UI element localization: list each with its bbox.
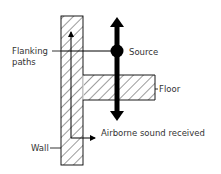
flanking-diagram: Flanking paths Source Floor Airborne sou… — [0, 0, 221, 174]
label-source: Source — [129, 47, 158, 57]
label-paths: paths — [12, 57, 36, 67]
label-floor: Floor — [159, 84, 181, 94]
wall — [61, 16, 83, 165]
source-arrow — [110, 17, 124, 121]
label-flanking: Flanking — [12, 46, 48, 56]
label-airborne: Airborne sound received — [101, 128, 205, 138]
source-dot-icon — [111, 45, 124, 58]
down-arrow-icon — [110, 111, 124, 121]
up-arrow-icon — [110, 17, 124, 27]
label-wall: Wall — [31, 143, 49, 153]
